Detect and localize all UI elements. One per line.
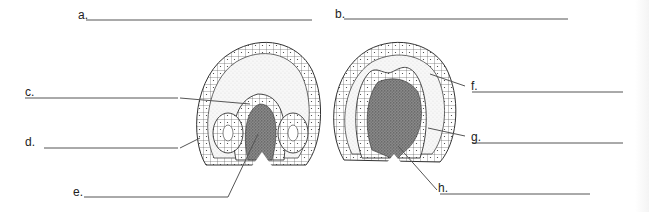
label-g: g. <box>471 131 481 143</box>
worksheet: a. b. c. d. e. f. g. h. <box>0 0 649 212</box>
page-edge-shade <box>635 0 649 212</box>
label-e: e. <box>73 186 83 198</box>
label-a: a. <box>78 9 88 21</box>
left-embryo <box>197 42 321 166</box>
label-lines <box>25 19 623 197</box>
diagram-canvas <box>0 0 649 212</box>
leader-d <box>180 138 200 148</box>
label-h: h. <box>438 182 448 194</box>
label-d: d. <box>25 136 35 148</box>
label-f: f. <box>471 80 478 92</box>
label-c: c. <box>25 86 34 98</box>
right-embryo <box>334 42 456 166</box>
label-b: b. <box>335 8 345 20</box>
